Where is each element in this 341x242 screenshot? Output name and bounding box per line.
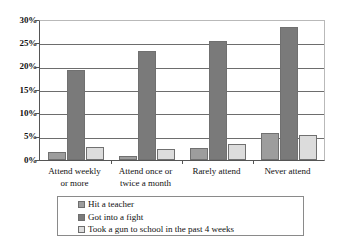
bar[interactable] — [261, 133, 279, 160]
legend-item[interactable]: Took a gun to school in the past 4 weeks — [78, 224, 303, 236]
legend-item[interactable]: Got into a fight — [78, 211, 303, 223]
bar[interactable] — [190, 148, 208, 160]
legend-swatch-took-a-gun — [78, 226, 85, 233]
x-axis-category-label: Never attend — [246, 166, 329, 178]
bar[interactable] — [209, 41, 227, 160]
legend-swatch-got-into-a-fight — [78, 214, 85, 221]
y-axis-tick-label: 20% — [3, 62, 37, 71]
bar-chart: 0%5%10%15%20%25%30% Attend weeklyor more… — [0, 0, 341, 242]
legend-label-hit-a-teacher: Hit a teacher — [88, 199, 134, 210]
bar[interactable] — [48, 152, 66, 160]
legend-label-took-a-gun: Took a gun to school in the past 4 weeks — [88, 224, 234, 235]
bar[interactable] — [119, 156, 137, 160]
bar[interactable] — [67, 70, 85, 160]
legend-label-got-into-a-fight: Got into a fight — [88, 212, 143, 223]
bar[interactable] — [157, 149, 175, 160]
y-axis-tick-label: 30% — [3, 16, 37, 25]
x-axis-tick-mark — [182, 160, 183, 164]
bar[interactable] — [138, 51, 156, 160]
x-axis-category-labels: Attend weeklyor moreAttend once ortwice … — [39, 166, 325, 194]
x-axis-tick-mark — [253, 160, 254, 164]
bar-group — [40, 20, 111, 160]
bar[interactable] — [299, 135, 317, 160]
y-axis-tick-label: 25% — [3, 39, 37, 48]
legend-swatch-hit-a-teacher — [78, 201, 85, 208]
bar-group — [182, 20, 253, 160]
bar-group — [253, 20, 324, 160]
y-axis-tick-label: 10% — [3, 109, 37, 118]
legend-item[interactable]: Hit a teacher — [78, 199, 303, 211]
y-axis-tick-label: 15% — [3, 86, 37, 95]
chart-legend: Hit a teacher Got into a fight Took a gu… — [57, 196, 304, 236]
bar[interactable] — [86, 147, 104, 160]
y-axis-tick-label: 5% — [3, 132, 37, 141]
bar-group — [111, 20, 182, 160]
y-axis-tick-label: 0% — [3, 156, 37, 165]
x-axis-tick-mark — [111, 160, 112, 164]
bar[interactable] — [228, 144, 246, 160]
bar-groups — [40, 20, 324, 160]
bar[interactable] — [280, 27, 298, 160]
